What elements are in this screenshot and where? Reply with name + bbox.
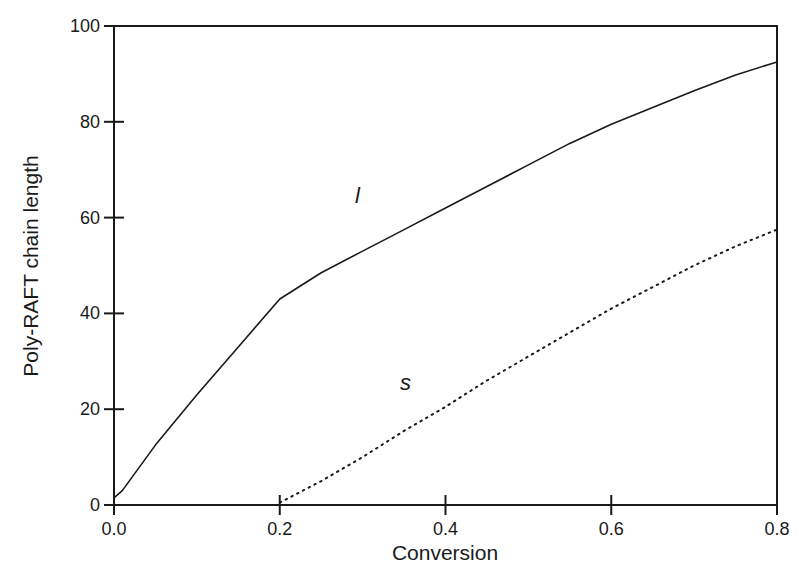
y-axis-ticks: 020406080100 xyxy=(70,16,124,515)
x-axis-ticks: 0.00.20.40.60.8 xyxy=(101,495,789,539)
x-tick-label: 0.4 xyxy=(433,519,458,539)
curve-s xyxy=(280,230,777,503)
y-tick-label: 40 xyxy=(80,303,100,323)
x-tick-label: 0.2 xyxy=(267,519,292,539)
y-axis-title: Poly-RAFT chain length xyxy=(19,155,42,376)
curve-label-l: l xyxy=(355,183,361,208)
y-tick-label: 0 xyxy=(90,495,100,515)
y-tick-label: 20 xyxy=(80,399,100,419)
x-tick-label: 0.8 xyxy=(764,519,789,539)
y-tick-label: 60 xyxy=(80,208,100,228)
y-tick-label: 80 xyxy=(80,112,100,132)
x-axis-title: Conversion xyxy=(392,541,498,564)
curve-l xyxy=(114,62,777,498)
curves xyxy=(114,62,777,503)
x-tick-label: 0.6 xyxy=(599,519,624,539)
y-tick-label: 100 xyxy=(70,16,100,36)
x-tick-label: 0.0 xyxy=(101,519,126,539)
line-chart: 0.00.20.40.60.8 020406080100 Conversion … xyxy=(0,0,805,582)
curve-label-s: s xyxy=(400,370,411,395)
